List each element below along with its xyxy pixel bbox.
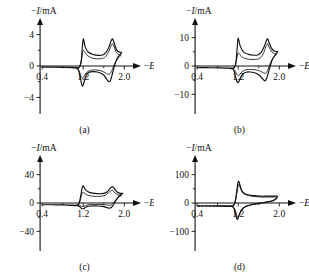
x-axis-arrow [133,200,141,206]
x-tick-label: 1.2 [232,72,244,82]
panel-d-plot: 0.41.22.0−1000100−I/mA−E/V(d) [155,137,309,274]
panel-b-axes [192,18,296,114]
y-axis-unit: /mA [40,143,57,153]
y-tick-label: −100 [169,227,189,237]
panel-d-labels: 0.41.22.0−1000100−I/mA−E/V(d) [169,143,309,273]
x-tick-label: 0.4 [191,72,203,82]
x-tick-label: 2.0 [273,72,285,82]
panel-c-curves [42,186,123,209]
y-axis-title: −I/mA [31,143,57,153]
x-tick-label: 2.0 [273,209,285,219]
panel-b-labels: 0.41.22.0−10010−I/mA−E/V(b) [174,6,309,136]
panel-caption: (a) [79,125,90,136]
y-tick-label: −40 [19,227,34,237]
y-tick-label: 0 [184,61,189,71]
panel-c-plot: 0.41.22.0−40040−I/mA−E/V(c) [0,137,154,274]
y-tick-label: −10 [174,90,189,100]
x-axis-symbol: E [303,198,309,208]
y-tick-label: 0 [29,61,34,71]
panel-a-axes [37,18,141,114]
x-axis-title: −E/V [144,198,154,208]
panel-c-axes [37,155,141,251]
y-tick-label: 4 [29,30,34,40]
x-axis-symbol: E [148,198,154,208]
x-tick-label: 1.2 [77,72,89,82]
panel-a-plot: 0.41.22.0−404−I/mA−E/V(a) [0,0,154,137]
panel-caption: (c) [79,262,90,273]
y-axis-arrow [37,155,43,162]
panel-c-labels: 0.41.22.0−40040−I/mA−E/V(c) [19,143,154,273]
y-tick-label: 0 [184,198,189,208]
x-tick-label: 0.4 [191,209,203,219]
x-axis-title: −E/V [144,61,154,71]
panel-d-axes [192,155,296,251]
y-axis-title: −I/mA [186,6,212,16]
y-tick-label: 0 [29,198,34,208]
x-axis-title: −E/V [299,61,309,71]
panel-caption: (d) [234,262,245,273]
cv-curve-cycle-inner [75,190,122,206]
y-tick-label: 100 [175,170,190,180]
panel-b-plot: 0.41.22.0−10010−I/mA−E/V(b) [155,0,309,137]
cv-curve-cycle-inner [231,44,277,76]
x-axis-arrow [288,200,296,206]
panel-a: 0.41.22.0−404−I/mA−E/V(a) [0,0,154,137]
x-tick-label: 2.0 [118,72,130,82]
y-axis-arrow [192,155,198,162]
x-tick-label: 2.0 [118,209,130,219]
x-axis-arrow [288,63,296,69]
y-axis-title: −I/mA [186,143,212,153]
x-axis-symbol: E [303,61,309,71]
panel-b: 0.41.22.0−10010−I/mA−E/V(b) [155,0,309,137]
y-axis-arrow [37,18,43,25]
y-tick-label: −4 [24,93,34,103]
y-axis-unit: /mA [40,6,57,16]
y-axis-title: −I/mA [31,6,57,16]
x-axis-title: −E/V [299,198,309,208]
x-axis-arrow [133,63,141,69]
figure-cyclic-voltammograms: 0.41.22.0−404−I/mA−E/V(a) 0.41.22.0−1001… [0,0,309,274]
y-axis-unit: /mA [195,6,212,16]
x-tick-label: 1.2 [77,209,89,219]
x-tick-label: 1.2 [232,209,244,219]
panel-d: 0.41.22.0−1000100−I/mA−E/V(d) [155,137,309,274]
x-axis-symbol: E [148,61,154,71]
y-tick-label: 10 [180,33,190,43]
panel-c: 0.41.22.0−40040−I/mA−E/V(c) [0,137,154,274]
y-axis-unit: /mA [195,143,212,153]
x-tick-label: 0.4 [36,209,48,219]
panel-caption: (b) [234,125,245,136]
y-axis-arrow [192,18,198,25]
y-tick-label: 40 [25,170,35,180]
x-tick-label: 0.4 [36,72,48,82]
